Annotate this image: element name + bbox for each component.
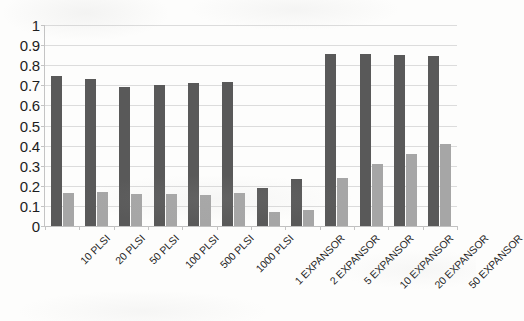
y-tick-label: 0.7 bbox=[6, 78, 40, 93]
bar-group bbox=[354, 25, 388, 226]
bar-group bbox=[79, 25, 113, 226]
bar-series-a bbox=[428, 56, 439, 226]
x-tickmark bbox=[217, 226, 218, 230]
bar-group bbox=[182, 25, 216, 226]
bar-series-a bbox=[85, 79, 96, 226]
x-tick-label: 10 PLSI bbox=[78, 232, 112, 266]
bar-group bbox=[148, 25, 182, 226]
bar-group bbox=[45, 25, 79, 226]
bar-series-a bbox=[394, 55, 405, 226]
bar-series-a bbox=[51, 76, 62, 226]
bars-layer bbox=[45, 25, 457, 226]
bar-series-b bbox=[234, 193, 245, 226]
bar-group bbox=[388, 25, 422, 226]
bar-series-a bbox=[360, 54, 371, 226]
x-tick-label: 100 PLSI bbox=[183, 232, 221, 270]
x-tickmark bbox=[148, 226, 149, 230]
x-tickmark bbox=[320, 226, 321, 230]
y-tick-label: 0.8 bbox=[6, 58, 40, 73]
x-tickmark bbox=[388, 226, 389, 230]
y-tick-label: 1 bbox=[6, 18, 40, 33]
y-tick-label: 0.1 bbox=[6, 198, 40, 213]
bar-series-b bbox=[406, 154, 417, 226]
x-tickmark bbox=[79, 226, 80, 230]
x-tickmark bbox=[182, 226, 183, 230]
y-axis: 00.10.20.30.40.50.60.70.80.91 bbox=[6, 18, 40, 226]
bar-series-a bbox=[257, 188, 268, 226]
bar-group bbox=[423, 25, 457, 226]
x-tick-label: 50 PLSI bbox=[147, 232, 181, 266]
y-tick-label: 0 bbox=[6, 219, 40, 234]
x-tickmark bbox=[114, 226, 115, 230]
bar-series-b bbox=[63, 193, 74, 226]
bar-series-b bbox=[269, 212, 280, 226]
bar-group bbox=[251, 25, 285, 226]
bar-series-b bbox=[97, 192, 108, 226]
y-tick-label: 0.4 bbox=[6, 138, 40, 153]
bar-group bbox=[320, 25, 354, 226]
y-tick-label: 0.9 bbox=[6, 38, 40, 53]
x-tickmark bbox=[285, 226, 286, 230]
bar-group bbox=[217, 25, 251, 226]
bar-series-b bbox=[372, 164, 383, 226]
bar-series-a bbox=[188, 83, 199, 226]
x-axis: 10 PLSI20 PLSI50 PLSI100 PLSI500 PLSI100… bbox=[44, 232, 456, 320]
bar-series-a bbox=[291, 179, 302, 226]
x-tickmark bbox=[457, 226, 458, 230]
y-tick-label: 0.6 bbox=[6, 98, 40, 113]
x-tickmark bbox=[423, 226, 424, 230]
bar-group bbox=[285, 25, 319, 226]
y-tick-label: 0.5 bbox=[6, 118, 40, 133]
bar-series-b bbox=[303, 210, 314, 226]
y-tick-label: 0.2 bbox=[6, 178, 40, 193]
bar-series-b bbox=[440, 144, 451, 226]
plot-area bbox=[44, 25, 457, 226]
y-tick-label: 0.3 bbox=[6, 158, 40, 173]
x-tick-label: 500 PLSI bbox=[217, 232, 255, 270]
bar-series-b bbox=[131, 194, 142, 226]
x-tickmark bbox=[354, 226, 355, 230]
bar-series-a bbox=[154, 85, 165, 226]
bar-series-b bbox=[166, 194, 177, 226]
bar-series-a bbox=[119, 87, 130, 226]
x-tickmark bbox=[251, 226, 252, 230]
bar-group bbox=[114, 25, 148, 226]
bar-series-a bbox=[325, 54, 336, 226]
bar-series-b bbox=[200, 195, 211, 226]
x-tick-label: 1000 PLSI bbox=[253, 232, 296, 275]
bar-series-b bbox=[337, 178, 348, 226]
bar-series-a bbox=[222, 82, 233, 226]
x-tick-label: 20 PLSI bbox=[112, 232, 146, 266]
x-tickmark bbox=[45, 226, 46, 230]
